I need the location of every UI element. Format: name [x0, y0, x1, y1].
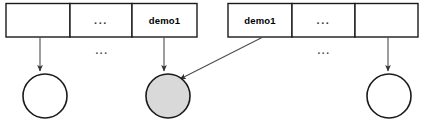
left-cell-1[interactable]	[6, 4, 70, 38]
diagram-canvas: ... demo1 demo1 ... ... ...	[0, 0, 424, 125]
left-table: ... demo1	[6, 4, 197, 38]
right-cell-demo1-label: demo1	[244, 15, 276, 26]
right-gap-ellipsis: ...	[317, 45, 330, 56]
node-left[interactable]	[23, 74, 67, 118]
right-cell-3[interactable]	[355, 4, 418, 38]
diagram-svg: ... demo1 demo1 ... ... ...	[0, 0, 424, 125]
left-gap-ellipsis: ...	[95, 45, 108, 56]
edge-right-demo1-to-node-shared	[180, 38, 262, 80]
node-right[interactable]	[367, 74, 411, 118]
right-table: demo1 ...	[228, 4, 418, 38]
node-shared[interactable]	[146, 74, 190, 118]
left-cell-ellipsis-label: ...	[94, 14, 108, 26]
right-cell-ellipsis-label: ...	[317, 14, 331, 26]
left-cell-demo1-label: demo1	[149, 15, 181, 26]
